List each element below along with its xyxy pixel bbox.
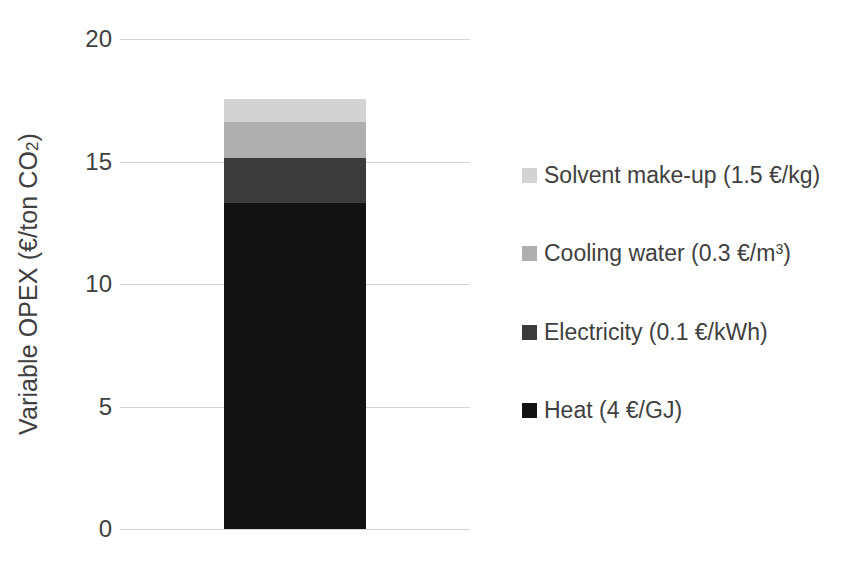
legend-label: Cooling water (0.3 €/m3) xyxy=(544,242,791,265)
bar-segment[interactable] xyxy=(224,99,366,122)
gridline-0 xyxy=(120,529,470,530)
legend-item[interactable]: Cooling water (0.3 €/m3) xyxy=(522,239,791,269)
legend-item[interactable]: Solvent make-up (1.5 €/kg) xyxy=(522,160,820,190)
legend-label: Electricity (0.1 €/kWh) xyxy=(544,321,768,344)
legend-label: Heat (4 €/GJ) xyxy=(544,399,682,422)
bar-segment[interactable] xyxy=(224,203,366,529)
y-tick-label: 20 xyxy=(12,27,112,51)
legend-item[interactable]: Electricity (0.1 €/kWh) xyxy=(522,317,768,347)
legend-swatch-icon xyxy=(522,168,537,183)
legend-swatch-icon xyxy=(522,403,537,418)
legend-label-superscript: 3 xyxy=(775,241,783,257)
legend-label-tail: ) xyxy=(783,240,791,266)
legend-swatch-icon xyxy=(522,325,537,340)
legend-label-main: Cooling water (0.3 €/m xyxy=(544,240,775,266)
gridline-20 xyxy=(120,39,470,40)
y-axis-title-tail: ) xyxy=(14,133,43,141)
y-tick-label: 15 xyxy=(12,150,112,174)
bar-segment[interactable] xyxy=(224,122,366,159)
legend-swatch-icon xyxy=(522,246,537,261)
chart-container: Variable OPEX (€/ton CO2) 20151050 Solve… xyxy=(0,0,845,568)
y-tick-label: 0 xyxy=(12,517,112,541)
legend-label: Solvent make-up (1.5 €/kg) xyxy=(544,164,820,187)
y-tick-label: 10 xyxy=(12,272,112,296)
stacked-bar-column[interactable] xyxy=(224,99,366,529)
bar-segment[interactable] xyxy=(224,158,366,203)
legend-item[interactable]: Heat (4 €/GJ) xyxy=(522,396,682,426)
y-tick-label: 5 xyxy=(12,395,112,419)
